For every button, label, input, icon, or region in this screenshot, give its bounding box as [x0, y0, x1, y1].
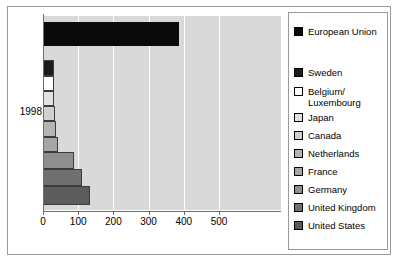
- bar-japan: [43, 91, 54, 106]
- legend-item-canada[interactable]: Canada: [294, 130, 388, 141]
- legend-swatch-icon: [294, 27, 303, 36]
- legend-item-european-union[interactable]: European Union: [294, 26, 388, 37]
- bar-netherlands: [43, 121, 56, 137]
- legend-label: France: [308, 166, 338, 177]
- gridline-400: [184, 16, 185, 210]
- legend-swatch-icon: [294, 113, 303, 122]
- plot-area-right-strip: [253, 16, 281, 210]
- legend-item-france[interactable]: France: [294, 166, 388, 177]
- tick-mark-200: [113, 211, 114, 215]
- chart-figure: 0100200300400500 1998 European UnionSwed…: [0, 0, 398, 263]
- bar-france: [43, 137, 58, 152]
- legend-swatch-icon: [294, 203, 303, 212]
- legend-item-belgium[interactable]: Belgium/ Luxembourg: [294, 86, 388, 108]
- legend-item-netherlands[interactable]: Netherlands: [294, 148, 388, 159]
- legend-swatch-icon: [294, 185, 303, 194]
- legend-item-japan[interactable]: Japan: [294, 112, 388, 123]
- tick-mark-300: [149, 211, 150, 215]
- legend-label: Belgium/ Luxembourg: [308, 86, 361, 108]
- bar-united-kingdom: [43, 169, 82, 186]
- bar-germany: [43, 152, 74, 169]
- bar-united-states: [43, 186, 90, 205]
- tick-label-500: 500: [204, 216, 234, 228]
- legend-label: United States: [308, 220, 365, 231]
- category-label-1998: 1998: [10, 106, 42, 118]
- tick-label-400: 400: [169, 216, 199, 228]
- legend-label: Netherlands: [308, 148, 359, 159]
- legend-swatch-icon: [294, 167, 303, 176]
- tick-label-200: 200: [98, 216, 128, 228]
- legend-label: Sweden: [308, 67, 342, 78]
- tick-mark-500: [219, 211, 220, 215]
- tick-label-100: 100: [63, 216, 93, 228]
- legend-swatch-icon: [294, 221, 303, 230]
- legend-item-sweden[interactable]: Sweden: [294, 67, 388, 78]
- bar-canada: [43, 106, 55, 121]
- tick-mark-100: [78, 211, 79, 215]
- bar-sweden: [43, 60, 54, 76]
- bar-belgium-luxembourg: [43, 76, 54, 91]
- legend-label: United Kingdom: [308, 202, 376, 213]
- legend-item-united-kingdom[interactable]: United Kingdom: [294, 202, 388, 213]
- legend-label: Japan: [308, 112, 334, 123]
- legend-item-united-states[interactable]: United States: [294, 220, 388, 231]
- legend-label: Germany: [308, 184, 347, 195]
- legend-item-germany[interactable]: Germany: [294, 184, 388, 195]
- bar-european-union: [43, 22, 179, 46]
- legend-swatch-icon: [294, 68, 303, 77]
- y-axis-line: [43, 14, 44, 212]
- legend-swatch-icon: [294, 131, 303, 140]
- tick-label-0: 0: [28, 216, 58, 228]
- legend-label: Canada: [308, 130, 341, 141]
- legend-swatch-icon: [294, 149, 303, 158]
- tick-mark-0: [43, 211, 44, 215]
- legend-label: European Union: [308, 26, 377, 37]
- legend: European UnionSwedenBelgium/ LuxembourgJ…: [288, 12, 388, 250]
- tick-label-300: 300: [134, 216, 164, 228]
- legend-swatch-icon: [294, 87, 303, 96]
- gridline-500: [219, 16, 220, 210]
- tick-mark-400: [184, 211, 185, 215]
